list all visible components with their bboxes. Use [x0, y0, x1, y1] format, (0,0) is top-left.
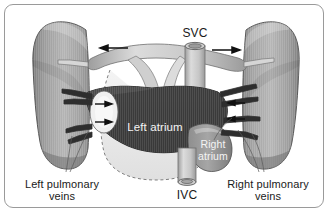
label-svc: SVC	[183, 27, 208, 40]
label-right-atrium-line1: Right	[200, 139, 225, 150]
label-ivc: IVC	[177, 189, 197, 202]
label-right-atrium-line2: atrium	[198, 151, 228, 162]
arrow-top-right	[212, 47, 240, 53]
inferior-vena-cava	[178, 148, 196, 185]
label-left-atrium: Left atrium	[127, 121, 182, 133]
label-left-pulmonary-veins-line2: veins	[49, 191, 75, 203]
anatomical-figure: SVC IVC Left atrium Right atrium Left pu…	[0, 0, 330, 214]
right-lung	[240, 18, 304, 173]
label-right-pulmonary-veins-line2: veins	[255, 191, 281, 203]
